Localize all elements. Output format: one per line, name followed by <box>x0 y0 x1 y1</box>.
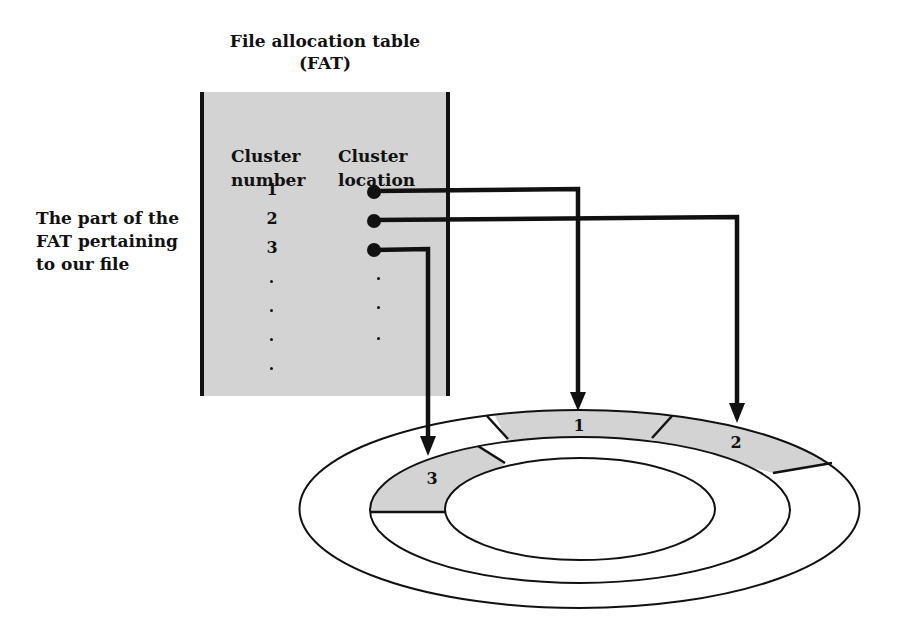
segment-label-2: 2 <box>730 433 741 452</box>
segment-label-3: 3 <box>426 469 437 488</box>
disk-diagram: 1 2 3 <box>0 0 906 629</box>
segment-label-1: 1 <box>573 416 584 435</box>
arrowhead-icon <box>570 392 586 411</box>
arrowhead-icon <box>729 403 745 423</box>
disk-segment-2 <box>652 400 880 473</box>
pointer-arrow-3 <box>367 243 436 456</box>
pointer-arrow-2 <box>367 214 745 423</box>
arrowhead-icon <box>420 436 436 456</box>
disk-inner-edge <box>445 458 715 560</box>
